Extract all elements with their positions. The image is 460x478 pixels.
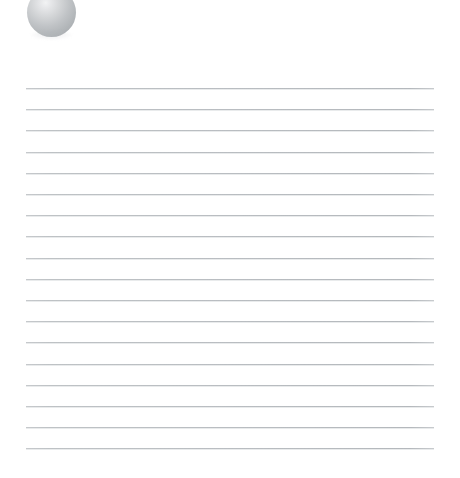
ruled-line xyxy=(26,88,434,89)
ruled-line xyxy=(26,109,434,110)
ruled-line xyxy=(26,342,434,343)
ruled-line xyxy=(26,300,434,301)
ruled-line xyxy=(26,448,434,449)
ruled-line xyxy=(26,385,434,386)
ruled-line xyxy=(26,258,434,259)
ruled-line xyxy=(26,427,434,428)
ruled-line xyxy=(26,406,434,407)
ruled-line xyxy=(26,279,434,280)
gray-sphere-icon xyxy=(27,0,76,37)
ruled-line xyxy=(26,321,434,322)
ruled-lines-area xyxy=(26,88,434,450)
ruled-line xyxy=(26,236,434,237)
ruled-line xyxy=(26,130,434,131)
ruled-line xyxy=(26,215,434,216)
ruled-page xyxy=(0,0,460,478)
ruled-line xyxy=(26,194,434,195)
sphere-shadow xyxy=(30,31,73,40)
ruled-line xyxy=(26,152,434,153)
ruled-line xyxy=(26,173,434,174)
orb-layer xyxy=(0,0,460,60)
ruled-line xyxy=(26,364,434,365)
